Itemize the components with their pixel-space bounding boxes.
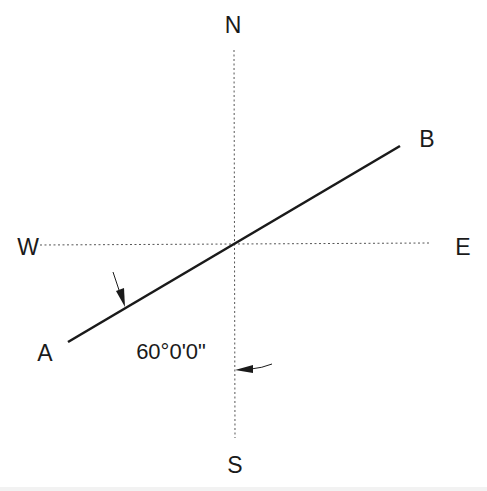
angle-value-label: 60°0'0" <box>136 341 206 363</box>
point-a-label: A <box>37 342 52 365</box>
west-label: W <box>17 236 39 259</box>
angle-arrow-to-south-icon <box>235 364 272 373</box>
east-label: E <box>455 236 470 259</box>
angle-arrow-to-line-icon <box>113 272 125 307</box>
north-label: N <box>225 14 242 37</box>
point-b-label: B <box>419 128 434 151</box>
line-ab <box>68 146 400 342</box>
south-label: S <box>227 454 242 477</box>
bottom-edge <box>0 487 487 491</box>
diagram-canvas <box>0 0 487 491</box>
